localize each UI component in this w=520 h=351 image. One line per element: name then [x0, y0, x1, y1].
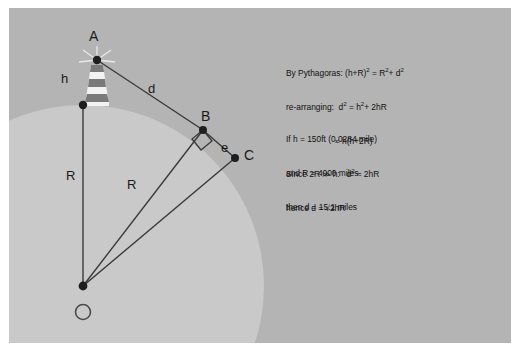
label-height-h: h	[61, 72, 68, 85]
derivation-line-1: By Pythagoras: (h+R)2 = R2+ d2	[286, 68, 404, 79]
diagram-panel: A B C h d R R e By Pythagoras: (h+R)2 = …	[9, 8, 511, 343]
note-example: If h = 150ft (0.0284 mile) and R = 4000 …	[286, 112, 377, 235]
label-point-c: C	[244, 148, 254, 162]
lighthouse-band-3	[85, 94, 109, 102]
example-line-3: then d = 15.1 miles	[286, 202, 377, 213]
label-distance-d: d	[148, 82, 155, 95]
example-line-2: and R = 4000 miles	[286, 168, 377, 179]
example-line-1: If h = 150ft (0.0284 mile)	[286, 134, 377, 145]
diagram-canvas	[9, 8, 511, 343]
lighthouse-base-marker	[79, 101, 87, 109]
lighthouse-base-plinth	[85, 102, 109, 106]
earth-centre-marker	[79, 282, 88, 291]
label-segment-e: e	[221, 141, 228, 154]
label-point-a: A	[89, 29, 98, 43]
point-b-marker	[199, 126, 207, 134]
label-point-b: B	[201, 109, 210, 123]
point-a-marker	[93, 56, 101, 64]
label-radius-r-vertical: R	[66, 169, 75, 182]
point-c-marker	[231, 154, 239, 162]
lighthouse-band-1	[90, 65, 104, 72]
label-radius-r-tangent: R	[127, 178, 136, 191]
lighthouse	[79, 46, 115, 106]
lighthouse-band-2	[88, 79, 106, 87]
